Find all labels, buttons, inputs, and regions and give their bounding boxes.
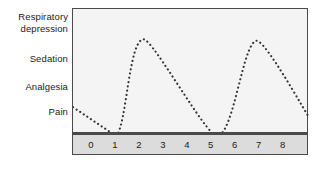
x-axis-tick-label: 6	[228, 139, 242, 151]
x-axis-tick-label: 3	[156, 139, 170, 151]
effect-over-time-chart: Respiratory depression Sedation Analgesi…	[0, 0, 316, 169]
x-axis-tick-label: 5	[204, 139, 218, 151]
x-axis-tick-label: 8	[276, 139, 290, 151]
x-axis-tick-band: 012345678	[72, 135, 308, 155]
y-axis-label-sedation: Sedation	[0, 53, 68, 65]
effect-level-curve	[73, 39, 309, 136]
y-axis-label-respiratory-depression-line2: depression	[0, 23, 68, 35]
x-axis-tick-label: 7	[252, 139, 266, 151]
y-axis-label-respiratory-depression: Respiratory depression	[0, 11, 68, 34]
y-axis-category-labels: Respiratory depression Sedation Analgesi…	[0, 0, 68, 135]
x-axis-tick-label: 1	[108, 139, 122, 151]
x-axis-tick-label: 0	[84, 139, 98, 151]
y-axis-label-analgesia: Analgesia	[0, 81, 68, 93]
plot-curve-svg	[73, 9, 309, 136]
x-axis-tick-label: 4	[180, 139, 194, 151]
y-axis-label-respiratory-depression-line1: Respiratory	[0, 11, 68, 23]
y-axis-label-pain: Pain	[0, 106, 68, 118]
x-axis-tick-label: 2	[132, 139, 146, 151]
plot-area	[72, 8, 308, 135]
